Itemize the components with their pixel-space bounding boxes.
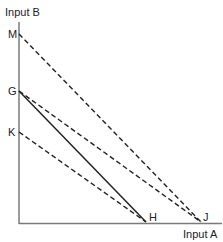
point-h-label: H [149,212,157,223]
x-axis-label: Input A [183,229,217,240]
line-m-j [19,34,201,222]
line-g-h [19,91,146,222]
point-k-label: K [8,127,15,138]
isocost-diagram [0,0,223,242]
point-g-label: G [8,86,17,97]
point-j-label: J [203,212,209,223]
y-axis-label: Input B [5,7,40,18]
point-m-label: M [8,29,17,40]
line-g-j [19,91,201,222]
